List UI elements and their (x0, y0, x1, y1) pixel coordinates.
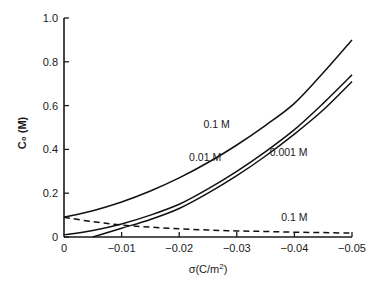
series-label: 0.01 M (189, 151, 221, 163)
y-axis-label: C₀ (M) (16, 116, 28, 149)
x-axis-label-close: ) (224, 263, 228, 275)
x-tick-label: −0.04 (280, 242, 308, 254)
x-axis-label-unit: (C/m (195, 263, 219, 275)
y-tick-label: 0.4 (43, 143, 58, 155)
x-axis-label: σ(C/m2) (189, 262, 228, 275)
x-tick-label: −0.01 (108, 242, 136, 254)
x-tick-label: 0 (61, 242, 67, 254)
series-group (64, 40, 352, 237)
y-tick-label: 1.0 (43, 12, 58, 24)
y-tick-label: 0 (52, 231, 58, 243)
axes: 00.20.40.60.81.00−0.01−0.02−0.03−0.04−0.… (43, 12, 366, 254)
y-tick-label: 0.6 (43, 100, 58, 112)
chart: 00.20.40.60.81.00−0.01−0.02−0.03−0.04−0.… (0, 0, 380, 284)
x-tick-label: −0.05 (338, 242, 366, 254)
series-label: 0.1 M (204, 118, 230, 130)
series-0-001-m-line (93, 82, 352, 238)
series-label: 0.1 M (281, 211, 307, 223)
y-tick-label: 0.2 (43, 187, 58, 199)
x-tick-label: −0.03 (223, 242, 251, 254)
x-tick-label: −0.02 (165, 242, 193, 254)
series-0-1-m-dashed-line (64, 217, 352, 233)
series-label: 0.001 M (270, 146, 308, 158)
y-tick-label: 0.8 (43, 56, 58, 68)
